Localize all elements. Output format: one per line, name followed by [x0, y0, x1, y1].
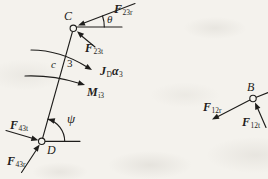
force-f43t-arrowhead	[31, 136, 39, 141]
inertia-torque-label: JDα3	[100, 62, 123, 79]
force-f23t-subscript: 23t	[94, 47, 104, 56]
inertia-moment-symbol: M	[87, 85, 98, 99]
force-f23t-label: F23t	[85, 39, 103, 56]
force-f12t-arrowhead	[255, 103, 260, 111]
force-f43r-arrowhead	[33, 145, 39, 152]
force-f43r-label: F43r	[7, 152, 26, 169]
psi-arc-arrowhead	[48, 118, 56, 123]
curvature-point-label: c	[51, 59, 56, 70]
figure-canvas: C F23r θ F23t c 3 JDα3 Mi3 ψ F43t D F43r…	[0, 0, 268, 179]
force-f43r-symbol: F	[7, 154, 15, 168]
inertia-torque-arc	[31, 50, 87, 67]
theta-angle-arc	[103, 16, 105, 27]
joint-d-pin	[39, 138, 45, 144]
inertia-torque-arrowhead	[85, 64, 92, 70]
inertia-moment-arrowhead	[78, 80, 86, 85]
force-f12t-symbol: F	[242, 115, 250, 129]
joint-d-label: D	[47, 144, 56, 156]
force-f43r-subscript: 43r	[16, 160, 26, 169]
force-f23r-arrowhead	[78, 20, 86, 25]
force-f43t-symbol: F	[10, 118, 18, 132]
force-f12r-symbol: F	[203, 100, 211, 114]
force-f23r-symbol: F	[114, 2, 122, 16]
force-f12t-subscript: 12t	[251, 121, 261, 130]
force-f12t-label: F12t	[242, 113, 260, 130]
theta-angle-label: θ	[107, 14, 112, 25]
joint-c-label: C	[64, 10, 72, 22]
diagram-linework	[0, 0, 268, 179]
link-number-label: 3	[67, 58, 73, 69]
force-f23r-subscript: 23r	[123, 8, 133, 17]
force-f43t-label: F43t	[10, 116, 28, 133]
inertia-moment-arc	[25, 76, 79, 83]
inertia-moment-subscript: i3	[98, 91, 104, 100]
force-f43t-subscript: 43t	[19, 124, 29, 133]
psi-angle-label: ψ	[67, 112, 75, 125]
joint-c-pin	[70, 25, 76, 31]
inertia-torque-alpha: α	[112, 64, 119, 78]
force-f12r-subscript: 12r	[212, 106, 222, 115]
inertia-moment-label: Mi3	[87, 83, 104, 100]
inertia-torque-symbol: J	[100, 64, 106, 78]
joint-b-pin	[250, 95, 256, 101]
psi-angle-arc	[48, 119, 65, 141]
force-f12r-label: F12r	[203, 98, 222, 115]
inertia-torque-alpha-subscript: 3	[119, 70, 123, 79]
force-f23t-symbol: F	[85, 41, 93, 55]
link-2-stub-line	[256, 93, 268, 98]
force-f23r-label: F23r	[114, 0, 133, 17]
joint-b-label: B	[247, 81, 254, 93]
